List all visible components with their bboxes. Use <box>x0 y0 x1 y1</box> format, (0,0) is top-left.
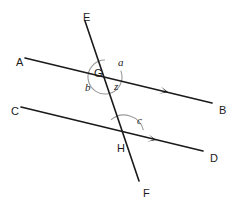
point-label-f: F <box>143 188 150 199</box>
angle-label-c: c <box>137 115 142 126</box>
point-label-d: D <box>210 153 218 164</box>
angle-label-z: z <box>114 81 118 92</box>
line-cd <box>21 107 203 151</box>
point-label-h: H <box>117 143 125 154</box>
point-label-g: G <box>94 68 103 79</box>
geometry-canvas <box>0 0 228 201</box>
line-ef-transversal <box>85 21 139 181</box>
point-label-c: C <box>11 106 19 117</box>
angle-label-b: b <box>85 82 91 93</box>
point-label-b: B <box>219 105 226 116</box>
angle-label-a: a <box>118 57 124 68</box>
point-label-a: A <box>16 57 23 68</box>
point-label-e: E <box>83 12 90 23</box>
geometry-figure: A B C D E F G H a b z c <box>0 0 228 201</box>
